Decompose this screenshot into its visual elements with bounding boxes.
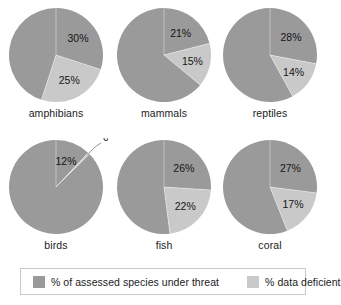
pie-value-deficient: 0.6% (103, 138, 108, 143)
pie-cell-coral: 27%17% coral (216, 138, 324, 251)
pie-value-threat: 21% (170, 27, 191, 39)
legend-entry-deficient: % data deficient (247, 269, 341, 294)
pie-cell-reptiles: 28%14% reptiles (216, 6, 324, 119)
pie-value-threat: 30% (68, 32, 89, 44)
pie-cell-fish: 26%22% fish (110, 138, 218, 251)
pie-mammals: 21%15% (112, 6, 216, 106)
pie-value-deficient: 25% (59, 74, 80, 86)
pie-cell-amphibians: 30%25% amphibians (2, 6, 110, 119)
pie-fish: 26%22% (112, 138, 216, 238)
pie-label-reptiles: reptiles (216, 107, 324, 119)
pie-label-fish: fish (110, 239, 218, 251)
pie-value-threat: 27% (280, 162, 301, 174)
legend-swatch-deficient (247, 276, 259, 288)
pie-value-threat: 28% (280, 31, 301, 43)
chart-legend: % of assessed species under threat % dat… (20, 268, 306, 295)
pie-label-birds: birds (2, 239, 110, 251)
pie-value-threat: 26% (173, 162, 194, 174)
pie-callout-leader (87, 143, 101, 155)
pie-amphibians: 30%25% (4, 6, 108, 106)
pie-value-deficient: 15% (182, 55, 203, 67)
legend-label-deficient: % data deficient (265, 276, 341, 288)
pie-value-threat: 12% (56, 155, 77, 167)
legend-swatch-threat (33, 276, 45, 288)
pie-label-mammals: mammals (110, 107, 218, 119)
pie-value-deficient: 22% (175, 200, 196, 212)
pie-value-deficient: 17% (283, 198, 304, 210)
pie-reptiles: 28%14% (218, 6, 322, 106)
pie-label-coral: coral (216, 239, 324, 251)
pie-label-amphibians: amphibians (2, 107, 110, 119)
pie-slice-remainder (117, 140, 170, 234)
legend-label-threat: % of assessed species under threat (51, 276, 219, 288)
pie-coral: 27%17% (218, 138, 322, 238)
pie-value-deficient: 14% (283, 66, 304, 78)
legend-entry-threat: % of assessed species under threat (33, 269, 219, 294)
pie-cell-mammals: 21%15% mammals (110, 6, 218, 119)
pie-birds: 12%0.6% (4, 138, 108, 238)
pie-cell-birds: 12%0.6% birds (2, 138, 110, 251)
